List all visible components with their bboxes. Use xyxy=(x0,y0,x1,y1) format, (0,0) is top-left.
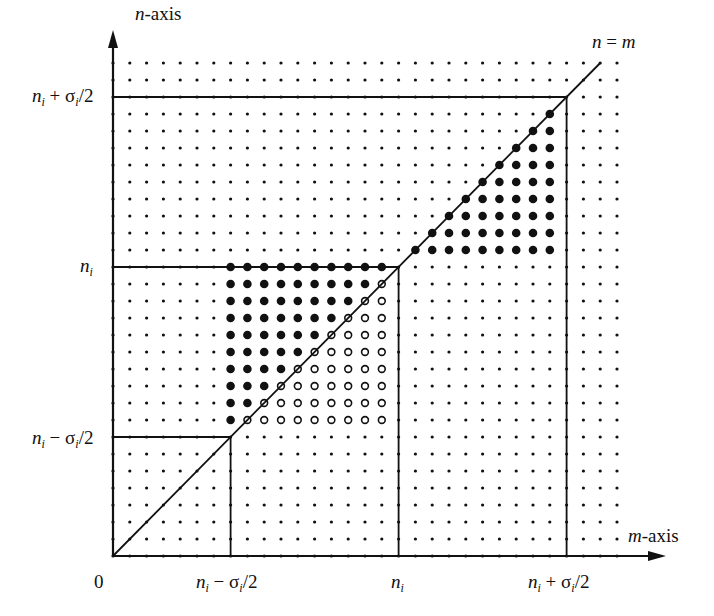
filled-lattice-point xyxy=(277,314,286,323)
lattice-point xyxy=(414,180,417,183)
lattice-point xyxy=(599,503,602,506)
lattice-point xyxy=(229,61,232,64)
lattice-point xyxy=(464,418,467,421)
lattice-point xyxy=(599,248,602,251)
lattice-point xyxy=(296,435,299,438)
lattice-point xyxy=(548,282,551,285)
lattice-point xyxy=(431,129,434,132)
lattice-point xyxy=(330,214,333,217)
lattice-point xyxy=(414,435,417,438)
lattice-point xyxy=(615,469,618,472)
lattice-point xyxy=(464,78,467,81)
lattice-point xyxy=(414,231,417,234)
lattice-point xyxy=(615,163,618,166)
lattice-point xyxy=(515,61,518,64)
lattice-point xyxy=(128,282,131,285)
lattice-point xyxy=(229,214,232,217)
hollow-lattice-point xyxy=(278,400,285,407)
lattice-point xyxy=(498,350,501,353)
lattice-point xyxy=(313,112,316,115)
lattice-point xyxy=(414,214,417,217)
lattice-point xyxy=(464,282,467,285)
lattice-point xyxy=(599,78,602,81)
lattice-point xyxy=(397,129,400,132)
lattice-point xyxy=(615,316,618,319)
lattice-point xyxy=(464,486,467,489)
lattice-point xyxy=(464,469,467,472)
y-axis-label: n-axis xyxy=(135,4,181,23)
lattice-point xyxy=(246,231,249,234)
lattice-point xyxy=(464,452,467,455)
lattice-point xyxy=(212,112,215,115)
lattice-point xyxy=(212,248,215,251)
filled-lattice-point xyxy=(361,280,370,289)
lattice-point xyxy=(498,537,501,540)
lattice-point xyxy=(296,231,299,234)
filled-lattice-point xyxy=(529,178,538,187)
lattice-point xyxy=(548,520,551,523)
lattice-point xyxy=(363,469,366,472)
lattice-point xyxy=(481,350,484,353)
lattice-point xyxy=(162,401,165,404)
lattice-point xyxy=(414,520,417,523)
lattice-point xyxy=(464,265,467,268)
lattice-point xyxy=(615,282,618,285)
hollow-lattice-point xyxy=(294,383,301,390)
lattice-point xyxy=(531,61,534,64)
lattice-point xyxy=(447,180,450,183)
filled-lattice-point xyxy=(294,331,303,340)
lattice-point xyxy=(447,367,450,370)
lattice-point xyxy=(414,537,417,540)
lattice-point xyxy=(363,452,366,455)
lattice-point xyxy=(263,248,266,251)
lattice-point xyxy=(179,146,182,149)
lattice-point xyxy=(599,486,602,489)
lattice-point xyxy=(447,350,450,353)
lattice-point xyxy=(195,452,198,455)
lattice-point xyxy=(582,316,585,319)
lattice-point xyxy=(615,112,618,115)
lattice-point xyxy=(330,435,333,438)
lattice-point xyxy=(347,214,350,217)
hollow-lattice-point xyxy=(362,349,369,356)
hollow-lattice-point xyxy=(362,383,369,390)
lattice-point xyxy=(313,231,316,234)
lattice-point xyxy=(128,367,131,370)
lattice-point xyxy=(615,231,618,234)
lattice-point xyxy=(615,350,618,353)
filled-lattice-point xyxy=(529,161,538,170)
lattice-point xyxy=(212,129,215,132)
lattice-point xyxy=(582,248,585,251)
lattice-point xyxy=(582,231,585,234)
lattice-point xyxy=(380,231,383,234)
lattice-point xyxy=(599,333,602,336)
lattice-point xyxy=(279,146,282,149)
lattice-point xyxy=(380,435,383,438)
lattice-point xyxy=(229,146,232,149)
lattice-point xyxy=(179,384,182,387)
lattice-point xyxy=(263,61,266,64)
hollow-lattice-point xyxy=(328,366,335,373)
lattice-point xyxy=(363,197,366,200)
lattice-point xyxy=(179,197,182,200)
lattice-point xyxy=(263,214,266,217)
lattice-point xyxy=(515,486,518,489)
hollow-lattice-point xyxy=(294,400,301,407)
lattice-point xyxy=(599,401,602,404)
lattice-point xyxy=(498,418,501,421)
filled-lattice-point xyxy=(529,246,538,255)
lattice-point xyxy=(212,316,215,319)
filled-lattice-point xyxy=(546,161,555,170)
lattice-point xyxy=(195,197,198,200)
lattice-point xyxy=(548,418,551,421)
lattice-point xyxy=(313,214,316,217)
lattice-point xyxy=(548,401,551,404)
lattice-point xyxy=(515,418,518,421)
filled-lattice-point xyxy=(495,212,504,221)
lattice-point xyxy=(380,112,383,115)
lattice-point xyxy=(582,503,585,506)
lattice-point xyxy=(279,231,282,234)
lattice-point xyxy=(179,350,182,353)
filled-lattice-point xyxy=(512,229,521,238)
lattice-point xyxy=(195,61,198,64)
